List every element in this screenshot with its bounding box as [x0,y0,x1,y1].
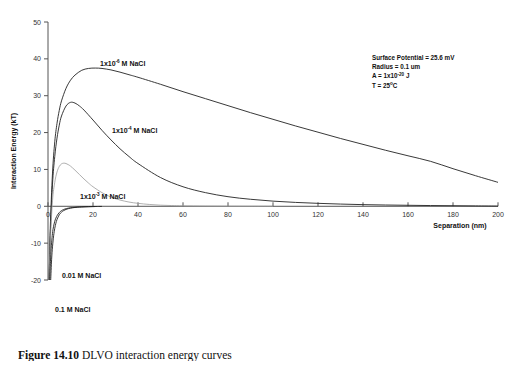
curve-series [49,68,498,280]
y-axis-title: Interaction Energy (kT) [10,113,18,189]
dlvo-figure: -20-100102030405002040608010012014016018… [0,0,510,368]
y-tick-label: -20 [31,277,41,284]
y-tick-label: 10 [33,166,41,173]
curve-2 [49,163,273,280]
parameter-box: Surface Potential = 25.6 mVRadius = 0.1 … [372,54,455,89]
x-tick-label: 140 [357,211,369,218]
x-tick-label: 20 [89,211,97,218]
series-label-4: 0.1 M NaCl [55,306,90,313]
series-label-0: 1x10-6 M NaCl [100,59,145,67]
x-tick-label: 160 [402,211,414,218]
x-tick-label: 80 [224,211,232,218]
series-annotations: 1x10-6 M NaCl1x10-4 M NaCl1x10-3 M NaCl0… [55,59,157,313]
x-tick-label: 60 [179,211,187,218]
series-label-3: 0.01 M NaCl [62,272,101,279]
x-tick-label: 40 [134,211,142,218]
y-tick-label: -10 [31,240,41,247]
x-tick-label: 180 [447,211,459,218]
series-label-2: 1x10-3 M NaCl [80,192,125,200]
caption-label: Figure 14.10 [18,349,79,361]
x-tick-label: 100 [267,211,279,218]
y-tick-label: 0 [37,203,41,210]
annotation-radius: Radius = 0.1 um [372,63,421,70]
x-tick-label: 0 [46,211,50,218]
series-label-1: 1x10-4 M NaCl [112,126,157,134]
x-tick-label: 120 [312,211,324,218]
x-axis-title: Separation (nm) [433,222,486,230]
y-tick-label: 20 [33,129,41,136]
figure-caption: Figure 14.10 DLVO interaction energy cur… [18,349,498,361]
curve-0 [49,68,498,280]
annotation-surface-potential: Surface Potential = 25.6 mV [372,54,455,61]
annotation-temperature: T = 25oC [372,81,398,89]
y-tick-label: 40 [33,55,41,62]
interaction-energy-chart: -20-100102030405002040608010012014016018… [0,0,510,345]
y-tick-label: 50 [33,19,41,26]
y-tick-label: 30 [33,92,41,99]
caption-text: DLVO interaction energy curves [79,349,232,361]
annotation-hamaker-constant: A = 1x10-20 J [372,72,410,80]
x-tick-label: 200 [492,211,504,218]
